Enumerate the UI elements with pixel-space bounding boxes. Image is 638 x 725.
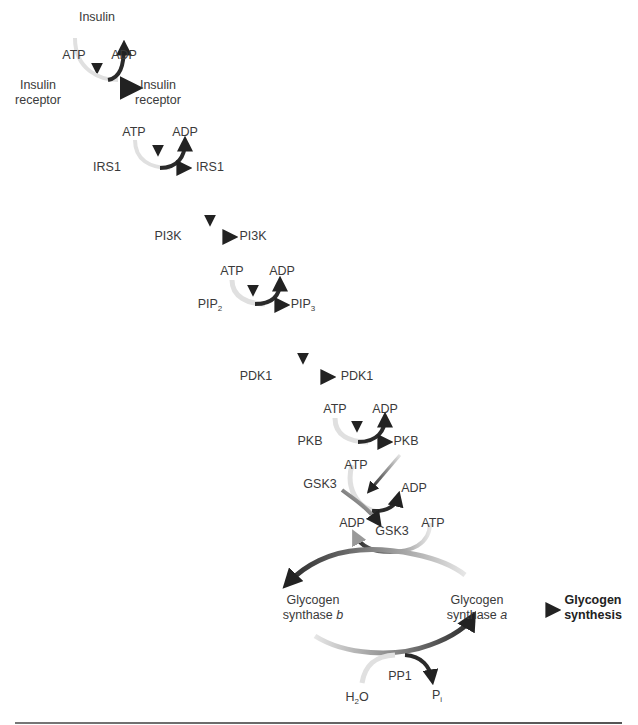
glycogen-synthesis-label: Glycogen synthesis	[564, 593, 622, 623]
adp-label-3: ADP	[269, 264, 295, 279]
bottom-divider	[15, 722, 622, 724]
atp-label-6: ATP	[421, 516, 444, 531]
adp-label-1: ADP	[111, 48, 137, 63]
pip2-label: PIP2	[198, 297, 223, 312]
pi3k-active-label: PI3K	[239, 229, 266, 244]
glycogen-synthase-a-label: Glycogen synthase a	[447, 593, 507, 623]
insulin-receptor-active-label: Insulin receptor	[135, 78, 181, 108]
glycogen-synthase-b-label: Glycogen synthase b	[283, 593, 343, 623]
pip2-base: PIP	[198, 297, 218, 311]
form-b: b	[336, 608, 343, 622]
atp-label-1: ATP	[62, 48, 85, 63]
synthase-text: synthase	[283, 608, 337, 622]
atp-label-4: ATP	[323, 402, 346, 417]
irs1-inactive-label: IRS1	[93, 160, 121, 175]
atp-label-3: ATP	[220, 264, 243, 279]
insulin-receptor-line1: Insulin	[135, 78, 181, 93]
glycogen-synthesis-line1: Glycogen	[564, 593, 622, 608]
gsk3-inactive-label: GSK3	[375, 524, 408, 539]
glycogen-synthase-a-line2: synthase a	[447, 608, 507, 623]
glycogen-synthase-a-line1: Glycogen	[447, 593, 507, 608]
insulin-receptor-line2: receptor	[135, 93, 181, 108]
pip3-subscript: 3	[311, 304, 315, 313]
pp1-label: PP1	[388, 669, 412, 684]
pkb-active-label: PKB	[393, 434, 418, 449]
pip3-label: PIP3	[291, 297, 316, 312]
adp-label-5: ADP	[401, 481, 427, 496]
adp-label-2: ADP	[172, 125, 198, 140]
insulin-receptor-line1: Insulin	[15, 78, 61, 93]
atp-label-2: ATP	[122, 125, 145, 140]
adp-label-4: ADP	[372, 402, 398, 417]
gsk3-active-label: GSK3	[303, 477, 336, 492]
synthase-text: synthase	[447, 608, 501, 622]
h2o-h: H	[345, 690, 354, 704]
adp-label-6: ADP	[339, 516, 365, 531]
pdk1-step	[280, 325, 330, 377]
pi-label: Pi	[432, 688, 442, 703]
h2o-label: H2O	[345, 690, 368, 705]
pdk1-active-label: PDK1	[341, 369, 374, 384]
glycogen-synthase-b-line2: synthase b	[283, 608, 343, 623]
h2o-o: O	[359, 690, 369, 704]
pi3k-step	[193, 182, 232, 237]
insulin-label: Insulin	[79, 10, 115, 25]
insulin-receptor-line2: receptor	[15, 93, 61, 108]
irs1-step	[130, 113, 186, 168]
pip3-base: PIP	[291, 297, 311, 311]
pdk1-inactive-label: PDK1	[240, 369, 273, 384]
form-a: a	[500, 608, 507, 622]
irs1-active-label: IRS1	[196, 160, 224, 175]
pkb-inactive-label: PKB	[297, 434, 322, 449]
pi3k-inactive-label: PI3K	[154, 229, 181, 244]
atp-label-5: ATP	[344, 458, 367, 473]
glycogen-synthase-b-line1: Glycogen	[283, 593, 343, 608]
insulin-receptor-inactive-label: Insulin receptor	[15, 78, 61, 108]
glycogen-synthesis-line2: synthesis	[564, 608, 622, 623]
pip2-subscript: 2	[218, 304, 222, 313]
pi-subscript: i	[440, 695, 442, 704]
